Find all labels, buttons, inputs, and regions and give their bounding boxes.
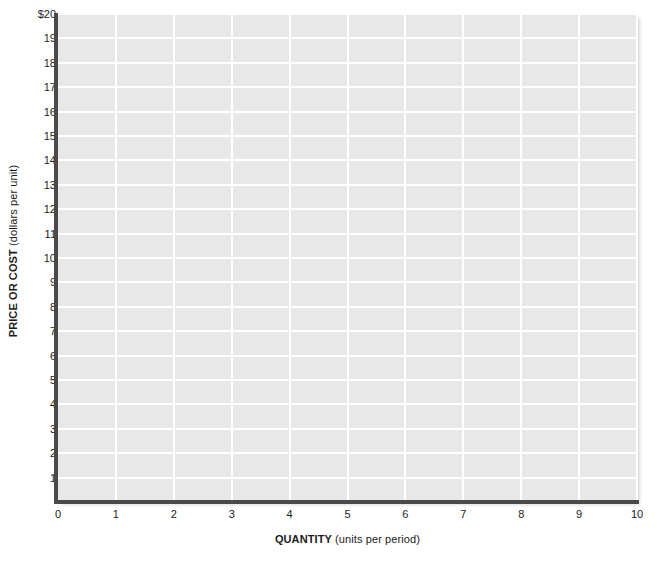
- y-axis-tick-label: 9: [26, 276, 56, 288]
- gridline-vertical: [578, 14, 580, 502]
- y-axis-title: PRICE OR COST (dollars per unit): [0, 0, 26, 502]
- x-axis-title-bold: QUANTITY: [275, 533, 332, 545]
- gridline-vertical: [520, 14, 522, 502]
- y-axis-tick-label: 8: [26, 301, 56, 313]
- y-axis-tick-label: 7: [26, 325, 56, 337]
- gridline-vertical: [347, 14, 349, 502]
- x-axis-tick-label: 9: [576, 508, 582, 520]
- x-axis-tick-label: 10: [631, 508, 643, 520]
- x-axis-tick-labels: 012345678910: [58, 508, 637, 526]
- y-axis-tick-label: 5: [26, 374, 56, 386]
- plot-area: [58, 14, 637, 502]
- gridline-vertical: [173, 14, 175, 502]
- gridline-vertical: [289, 14, 291, 502]
- x-axis-title: QUANTITY (units per period): [58, 533, 637, 545]
- y-axis-tick-label: 14: [26, 154, 56, 166]
- x-axis-line: [54, 500, 639, 504]
- x-axis-tick-label: 2: [171, 508, 177, 520]
- y-axis-tick-label: 12: [26, 203, 56, 215]
- y-axis-title-unit: (dollars per unit): [7, 165, 19, 246]
- y-axis-tick-labels: 12345678910111213141516171819$20: [26, 14, 56, 502]
- gridline-vertical: [115, 14, 117, 502]
- y-axis-tick-label: 4: [26, 398, 56, 410]
- x-axis-tick-label: 1: [113, 508, 119, 520]
- x-axis-tick-label: 6: [402, 508, 408, 520]
- x-axis-tick-label: 7: [460, 508, 466, 520]
- gridline-vertical: [404, 14, 406, 502]
- x-axis-title-unit: (units per period): [335, 533, 420, 545]
- x-axis-tick-label: 8: [518, 508, 524, 520]
- y-axis-tick-label: 18: [26, 57, 56, 69]
- y-axis-tick-label: $20: [26, 8, 56, 20]
- y-axis-title-bold: PRICE OR COST: [7, 249, 19, 337]
- y-axis-tick-label: 17: [26, 81, 56, 93]
- x-axis-tick-label: 4: [287, 508, 293, 520]
- gridline-vertical: [636, 14, 638, 502]
- x-axis-tick-label: 5: [344, 508, 350, 520]
- y-axis-tick-label: 10: [26, 252, 56, 264]
- y-axis-tick-label: 16: [26, 106, 56, 118]
- y-axis-tick-label: 3: [26, 423, 56, 435]
- gridline-vertical: [231, 14, 233, 502]
- y-axis-tick-label: 13: [26, 179, 56, 191]
- gridline-vertical: [462, 14, 464, 502]
- chart-container: PRICE OR COST (dollars per unit) 1234567…: [0, 0, 657, 561]
- y-axis-line: [54, 13, 58, 504]
- y-axis-tick-label: 11: [26, 228, 56, 240]
- y-axis-tick-label: 19: [26, 32, 56, 44]
- y-axis-tick-label: 15: [26, 130, 56, 142]
- y-axis-tick-label: 1: [26, 472, 56, 484]
- y-axis-tick-label: 2: [26, 447, 56, 459]
- y-axis-tick-label: 6: [26, 350, 56, 362]
- x-axis-tick-label: 3: [229, 508, 235, 520]
- x-axis-tick-label: 0: [55, 508, 61, 520]
